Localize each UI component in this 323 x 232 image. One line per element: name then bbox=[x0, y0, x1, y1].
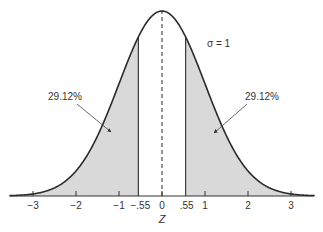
x-tick-label: 3 bbox=[288, 200, 294, 211]
x-tick-label: −1 bbox=[113, 200, 125, 211]
area-label-right: 29.12% bbox=[245, 91, 279, 102]
x-tick-label: 0 bbox=[159, 200, 165, 211]
x-tick-label: −3 bbox=[27, 200, 39, 211]
x-axis-label: Z bbox=[158, 213, 167, 225]
chart-canvas: −3−2−1−.550.55123 Z σ = 1 29.12%29.12% bbox=[0, 0, 323, 232]
x-tick-label: .55 bbox=[180, 200, 194, 211]
x-tick-label: −.55 bbox=[130, 200, 150, 211]
x-tick-label: 2 bbox=[245, 200, 251, 211]
x-tick-label: 1 bbox=[202, 200, 208, 211]
area-annotations: 29.12%29.12% bbox=[48, 91, 279, 133]
x-tick-label: −2 bbox=[70, 200, 82, 211]
normal-distribution-chart: −3−2−1−.550.55123 Z σ = 1 29.12%29.12% bbox=[0, 0, 323, 232]
sigma-annotation: σ = 1 bbox=[207, 38, 231, 49]
area-label-left: 29.12% bbox=[48, 91, 82, 102]
